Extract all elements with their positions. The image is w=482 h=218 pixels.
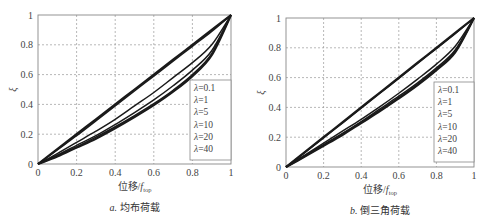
x-axis-label: 位移/ftop <box>118 180 152 193</box>
x-tick-label: 0 <box>36 167 41 178</box>
y-tick-label: 0.6 <box>21 69 34 80</box>
y-tick-label: 0.6 <box>269 72 282 83</box>
y-tick-label: 0 <box>28 159 33 170</box>
x-tick-label: 1 <box>472 170 477 181</box>
legend-entry: λ=10 <box>193 120 213 130</box>
x-tick-label: 0.4 <box>355 170 368 181</box>
legend: λ=0.1λ=1λ=5λ=10λ=20λ=40 <box>434 82 474 162</box>
y-tick-label: 0.2 <box>21 129 34 140</box>
legend-entry: λ=20 <box>193 132 213 142</box>
legend-entry: λ=10 <box>437 122 457 132</box>
chart-canvas: 00.20.40.60.8100.20.40.60.81ξ位移/ftopa. 均… <box>0 0 482 218</box>
legend-entry: λ=0.1 <box>193 83 216 93</box>
legend-entry: λ=40 <box>193 144 213 154</box>
panel-caption: b. 倒三角荷载 <box>350 205 410 216</box>
y-tick-label: 0.8 <box>21 39 34 50</box>
legend-entry: λ=1 <box>437 97 452 107</box>
y-tick-label: 0.8 <box>269 42 282 53</box>
legend-entry: λ=5 <box>193 107 208 117</box>
y-tick-label: 1 <box>28 10 33 21</box>
x-tick-label: 1 <box>229 167 234 178</box>
chart-panel-b: 00.20.40.60.8100.20.40.60.81ξ位移/ftopb. 倒… <box>255 13 477 217</box>
x-tick-label: 0.8 <box>186 167 199 178</box>
x-tick-label: 0.6 <box>148 167 161 178</box>
y-tick-label: 0.4 <box>21 99 34 110</box>
legend-entry: λ=0.1 <box>437 85 460 95</box>
panel-caption: a. 均布荷载 <box>110 202 160 213</box>
legend-entry: λ=20 <box>437 134 457 144</box>
x-tick-label: 0.8 <box>430 170 443 181</box>
legend: λ=0.1λ=1λ=5λ=10λ=20λ=40 <box>190 80 231 160</box>
x-tick-label: 0 <box>284 170 289 181</box>
y-tick-label: 0 <box>276 162 281 173</box>
y-tick-label: 0.2 <box>269 132 282 143</box>
x-tick-label: 0.6 <box>393 170 406 181</box>
x-tick-label: 0.2 <box>70 167 83 178</box>
x-tick-label: 0.2 <box>317 170 330 181</box>
x-axis-label: 位移/ftop <box>363 183 397 196</box>
y-tick-label: 1 <box>276 13 281 24</box>
legend-entry: λ=40 <box>437 146 457 156</box>
legend-entry: λ=1 <box>193 95 208 105</box>
chart-panel-a: 00.20.40.60.8100.20.40.60.81ξ位移/ftopa. 均… <box>7 10 234 214</box>
y-axis-label: ξ <box>7 87 19 92</box>
x-tick-label: 0.4 <box>109 167 122 178</box>
y-axis-label: ξ <box>255 90 267 95</box>
legend-entry: λ=5 <box>437 109 452 119</box>
y-tick-label: 0.4 <box>269 102 282 113</box>
